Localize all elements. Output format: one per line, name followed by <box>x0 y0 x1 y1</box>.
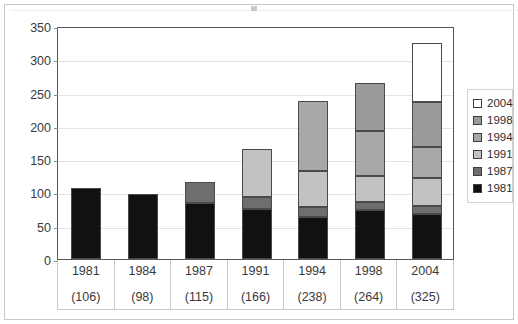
x-axis-cell: 1987(115) <box>170 260 227 309</box>
legend-item-label: 1987 <box>487 166 513 178</box>
y-axis-tick-label: 100 <box>30 188 51 201</box>
legend-item[interactable]: 1994 <box>473 129 508 146</box>
x-axis-cell: 1998(264) <box>340 260 397 309</box>
legend-item-label: 1991 <box>487 149 513 161</box>
x-axis-cell: 1981(106) <box>57 260 114 309</box>
bar-segment[interactable] <box>71 188 101 259</box>
bar-segment[interactable] <box>298 101 328 172</box>
top-artifact-mark <box>251 6 257 11</box>
bar-segment[interactable] <box>412 102 442 147</box>
x-axis-category-label: 1991 <box>242 265 270 278</box>
bar-segment[interactable] <box>242 149 272 198</box>
x-axis-cell: 1991(166) <box>227 260 284 309</box>
top-divider <box>10 10 518 11</box>
legend-swatch-icon <box>473 167 482 176</box>
bar-segment[interactable] <box>412 178 442 206</box>
legend-item[interactable]: 1981 <box>473 180 508 197</box>
legend-item[interactable]: 1998 <box>473 112 508 129</box>
legend-item-label: 2004 <box>487 98 513 110</box>
y-tick-mark <box>54 95 58 96</box>
x-axis-category-label: 1998 <box>355 265 383 278</box>
bar-segment[interactable] <box>412 43 442 102</box>
y-axis-tick-label: 250 <box>30 88 51 101</box>
y-axis-tick-label: 350 <box>30 22 51 35</box>
x-axis-cell: 1984(98) <box>114 260 171 309</box>
bar-segment[interactable] <box>242 197 272 209</box>
legend-item-label: 1998 <box>487 115 513 127</box>
y-tick-mark <box>54 28 58 29</box>
stacked-bar[interactable] <box>71 188 101 259</box>
x-axis-cell: 2004(325) <box>396 260 454 309</box>
stacked-bar[interactable] <box>185 182 215 259</box>
bar-segment[interactable] <box>355 83 385 130</box>
y-tick-mark <box>54 194 58 195</box>
bar-segment[interactable] <box>355 131 385 176</box>
bar-segment[interactable] <box>355 210 385 259</box>
bar-segment[interactable] <box>355 202 385 210</box>
bar-segment[interactable] <box>355 176 385 203</box>
bar-segment[interactable] <box>298 171 328 207</box>
bar-segment[interactable] <box>412 214 442 259</box>
x-axis-total-label: (98) <box>131 291 153 304</box>
y-tick-mark <box>54 128 58 129</box>
legend-item-label: 1994 <box>487 132 513 144</box>
x-axis-category-label: 1994 <box>298 265 326 278</box>
y-tick-mark <box>54 61 58 62</box>
x-axis-category-label: 2004 <box>411 265 439 278</box>
legend-swatch-icon <box>473 99 482 108</box>
stacked-bar[interactable] <box>298 101 328 259</box>
y-tick-mark <box>54 228 58 229</box>
stacked-bar[interactable] <box>412 43 442 259</box>
plot-area: 050100150200250300350 <box>57 27 454 260</box>
legend-item[interactable]: 1987 <box>473 163 508 180</box>
x-axis-category-label: 1987 <box>185 265 213 278</box>
legend-swatch-icon <box>473 116 482 125</box>
y-axis-tick-label: 150 <box>30 155 51 168</box>
y-axis-tick-label: 200 <box>30 122 51 135</box>
x-axis-total-label: (166) <box>241 291 270 304</box>
x-axis-category-label: 1984 <box>128 265 156 278</box>
bar-segment[interactable] <box>298 217 328 259</box>
bar-segment[interactable] <box>412 147 442 178</box>
y-axis-tick-label: 50 <box>37 221 51 234</box>
legend-swatch-icon <box>473 150 482 159</box>
bar-segment[interactable] <box>185 182 215 203</box>
x-axis-label-table: 1981(106)1984(98)1987(115)1991(166)1994(… <box>57 260 454 310</box>
bar-segment[interactable] <box>128 194 158 259</box>
y-axis-tick-label: 300 <box>30 55 51 68</box>
chart-screenshot: 050100150200250300350 1981(106)1984(98)1… <box>0 0 518 324</box>
gridline <box>58 128 453 129</box>
y-axis-tick-label: 0 <box>44 255 51 268</box>
chart-frame: 050100150200250300350 1981(106)1984(98)1… <box>4 4 514 320</box>
x-axis-total-label: (238) <box>298 291 327 304</box>
bar-segment[interactable] <box>242 209 272 259</box>
x-axis-total-label: (325) <box>411 291 440 304</box>
y-tick-mark <box>54 161 58 162</box>
chart-legend: 200419981994199119871981 <box>467 89 513 203</box>
legend-swatch-icon <box>473 184 482 193</box>
legend-item-label: 1981 <box>487 183 513 195</box>
stacked-bar[interactable] <box>242 149 272 260</box>
x-axis-total-label: (115) <box>185 291 213 304</box>
stacked-bar[interactable] <box>128 194 158 259</box>
stacked-bar[interactable] <box>355 83 385 259</box>
gridline <box>58 61 453 62</box>
gridline <box>58 95 453 96</box>
x-axis-total-label: (264) <box>354 291 383 304</box>
bar-segment[interactable] <box>185 203 215 259</box>
x-axis-total-label: (106) <box>71 291 100 304</box>
legend-item[interactable]: 2004 <box>473 95 508 112</box>
bar-segment[interactable] <box>412 206 442 214</box>
bar-segment[interactable] <box>298 207 328 217</box>
legend-item[interactable]: 1991 <box>473 146 508 163</box>
x-axis-category-label: 1981 <box>72 265 100 278</box>
legend-swatch-icon <box>473 133 482 142</box>
x-axis-cell: 1994(238) <box>283 260 340 309</box>
